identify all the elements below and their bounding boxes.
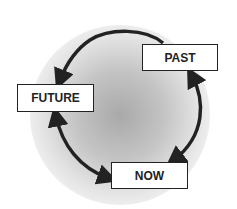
node-future-label: FUTURE	[31, 91, 80, 105]
time-cycle-diagram: PAST FUTURE NOW	[0, 0, 237, 209]
node-past: PAST	[142, 44, 218, 71]
node-past-label: PAST	[164, 51, 195, 65]
node-now: NOW	[111, 162, 188, 189]
arrow-past-now	[174, 76, 200, 160]
node-future: FUTURE	[17, 84, 94, 112]
node-now-label: NOW	[135, 169, 164, 183]
arrow-future-now	[56, 116, 108, 178]
